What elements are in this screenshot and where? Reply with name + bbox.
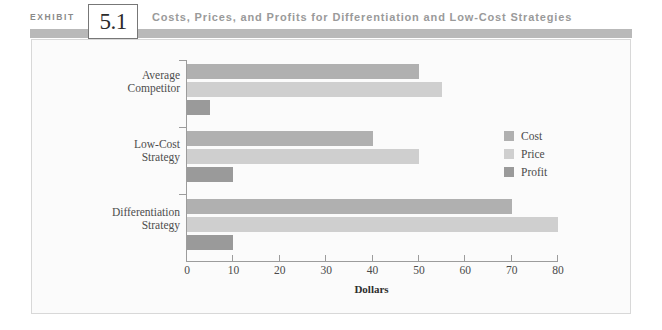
exhibit-number-label: 5.1	[99, 10, 126, 33]
legend-swatch-price-icon	[504, 149, 514, 159]
category-label-differentiation-strategy: Differentiation Strategy	[32, 206, 180, 232]
exhibit-title: Costs, Prices, and Profits for Different…	[152, 11, 572, 23]
category-label-line: Strategy	[32, 151, 180, 164]
x-axis-tick-label: 60	[450, 264, 480, 276]
legend-item-cost: Cost	[504, 128, 599, 144]
bar-price-differentiation-strategy	[187, 217, 558, 232]
legend-swatch-profit-icon	[504, 167, 514, 177]
bar-profit-average-competitor	[187, 100, 210, 115]
category-label-line: Differentiation	[32, 206, 180, 219]
category-label-line: Strategy	[32, 219, 180, 232]
x-axis-tick	[511, 255, 512, 262]
x-axis-tick	[557, 255, 558, 262]
x-axis-tick-label: 70	[497, 264, 527, 276]
x-axis-tick	[418, 255, 419, 262]
category-label-line: Competitor	[32, 82, 180, 95]
bar-price-low-cost-strategy	[187, 149, 419, 164]
x-axis-tick-label: 50	[404, 264, 434, 276]
bar-cost-differentiation-strategy	[187, 199, 512, 214]
category-tick	[179, 60, 187, 61]
x-axis-tick	[464, 255, 465, 262]
x-axis-tick	[232, 255, 233, 262]
category-axis-labels: Average Competitor Low-Cost Strategy Dif…	[32, 40, 180, 260]
legend-item-profit: Profit	[504, 164, 599, 180]
x-axis-tick-label: 0	[172, 264, 202, 276]
category-label-average-competitor: Average Competitor	[32, 69, 180, 95]
category-tick	[179, 127, 187, 128]
exhibit-kicker-label: EXHIBIT	[30, 12, 75, 22]
bar-profit-differentiation-strategy	[187, 235, 233, 250]
x-axis-tick-label: 40	[358, 264, 388, 276]
category-label-line: Average	[32, 69, 180, 82]
bar-profit-low-cost-strategy	[187, 167, 233, 182]
x-axis-title: Dollars	[186, 283, 557, 295]
bar-cost-average-competitor	[187, 64, 419, 79]
x-axis-tick-label: 30	[311, 264, 341, 276]
figure-frame: Average Competitor Low-Cost Strategy Dif…	[31, 39, 631, 314]
category-label-low-cost-strategy: Low-Cost Strategy	[32, 138, 180, 164]
legend-label-profit: Profit	[521, 166, 547, 178]
bar-price-average-competitor	[187, 82, 442, 97]
x-axis-tick-label: 80	[543, 264, 573, 276]
legend-label-cost: Cost	[521, 130, 542, 142]
legend-swatch-cost-icon	[504, 131, 514, 141]
x-axis-tick-label: 20	[265, 264, 295, 276]
x-axis-tick	[372, 255, 373, 262]
bar-chart-plot: Average Competitor Low-Cost Strategy Dif…	[32, 40, 632, 315]
exhibit-number-box: 5.1	[88, 4, 138, 39]
category-label-line: Low-Cost	[32, 138, 180, 151]
x-axis-tick	[325, 255, 326, 262]
legend-item-price: Price	[504, 146, 599, 162]
x-axis-tick	[186, 255, 187, 262]
bar-cost-low-cost-strategy	[187, 131, 373, 146]
category-tick	[179, 194, 187, 195]
x-axis-tick-label: 10	[218, 264, 248, 276]
legend-label-price: Price	[521, 148, 545, 160]
chart-legend: Cost Price Profit	[504, 128, 599, 182]
x-axis-tick	[279, 255, 280, 262]
